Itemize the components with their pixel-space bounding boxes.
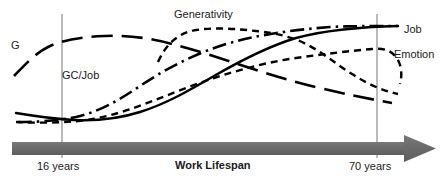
series-label-gc-job: GC/Job [62,70,99,81]
chart-figure: G GC/Job Generativity Job Emotion 16 yea… [0,0,447,180]
series-label-generativity: Generativity [174,9,233,20]
lifespan-axis-arrow [12,135,436,162]
series-label-emotion: Emotion [394,49,434,60]
series-line-emotion [16,49,401,123]
axis-tick-label-start: 16 years [37,161,79,172]
axis-title: Work Lifespan [175,160,251,171]
series-label-job: Job [404,24,422,35]
chart-plot-area [0,0,447,180]
series-label-g: G [11,40,20,51]
axis-tick-label-end: 70 years [349,161,391,172]
